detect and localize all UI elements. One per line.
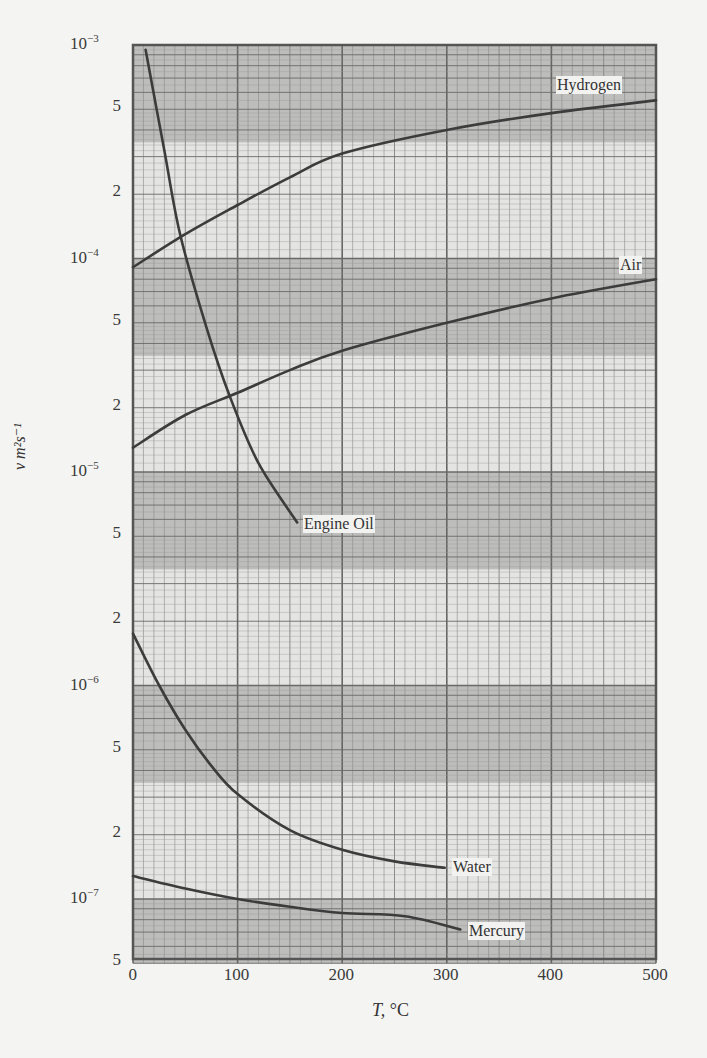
y-tick-label: 10−4 — [70, 246, 120, 268]
y-tick-label: 10−7 — [70, 886, 120, 908]
y-axis-title: ν m²s⁻¹ — [10, 423, 29, 470]
y-tick-label: 10−3 — [70, 32, 120, 54]
label-air: Air — [619, 256, 642, 274]
x-tick-label: 300 — [433, 965, 459, 985]
y-tick-label: 2 — [77, 822, 121, 842]
x-tick-label: 0 — [128, 965, 137, 985]
y-tick-label: 5 — [77, 523, 121, 543]
label-hydrogen: Hydrogen — [556, 76, 622, 94]
x-tick-label: 100 — [224, 965, 250, 985]
y-tick-label: 5 — [77, 310, 121, 330]
y-tick-label: 5 — [77, 96, 121, 116]
x-axis-variable: T, — [372, 1000, 385, 1020]
label-water: Water — [452, 858, 492, 876]
x-axis-unit: °C — [385, 1000, 409, 1020]
label-engine-oil: Engine Oil — [303, 515, 375, 533]
x-tick-label: 500 — [642, 965, 668, 985]
y-tick-label: 5 — [77, 737, 121, 757]
y-tick-label: 2 — [77, 181, 121, 201]
y-tick-label: 10−6 — [70, 673, 120, 695]
y-tick-label: 2 — [77, 608, 121, 628]
x-axis-title: T, °C — [372, 1000, 409, 1021]
x-tick-label: 200 — [328, 965, 354, 985]
label-mercury: Mercury — [468, 922, 525, 940]
y-tick-label: 2 — [77, 395, 121, 415]
x-tick-label: 400 — [538, 965, 564, 985]
y-tick-label: 10−5 — [70, 459, 120, 481]
y-tick-label: 5 — [77, 950, 121, 970]
